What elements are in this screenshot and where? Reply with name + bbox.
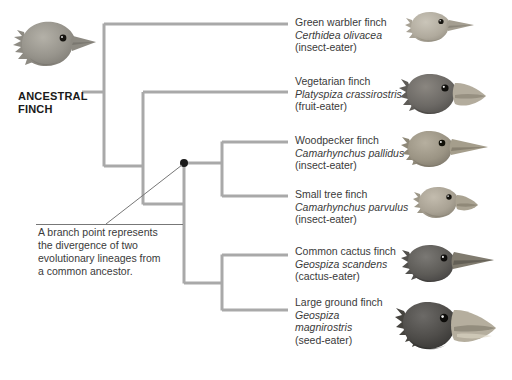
taxon-common-name: Woodpecker finch — [295, 134, 404, 147]
taxon-scientific-name-cont: magnirostris — [295, 321, 383, 334]
taxon-label-vegetarian-finch: Vegetarian finch Platyspiza crassirostri… — [295, 75, 402, 113]
callout-line-1: A branch point represents — [38, 226, 198, 239]
finch-head-large-ground-finch — [394, 296, 502, 356]
taxon-common-name: Common cactus finch — [295, 245, 396, 258]
taxon-diet: (insect-eater) — [295, 41, 387, 54]
taxon-label-common-cactus-finch: Common cactus finch Geospiza scandens (c… — [295, 245, 396, 283]
finch-head-common-cactus-finch — [400, 240, 500, 286]
callout-line-4: a common ancestor. — [38, 265, 198, 278]
finch-head-small-tree-finch — [412, 182, 488, 222]
taxon-common-name: Large ground finch — [295, 296, 383, 309]
taxon-common-name: Small tree finch — [295, 188, 408, 201]
taxon-diet: (insect-eater) — [295, 159, 404, 172]
ancestral-finch-head-icon — [8, 14, 100, 78]
taxon-label-small-tree-finch: Small tree finch Camarhynchus parvulus (… — [295, 188, 408, 226]
taxon-scientific-name: Camarhynchus pallidus — [295, 147, 404, 160]
finch-head-vegetarian-finch — [398, 68, 494, 120]
taxon-scientific-name: Platyspiza crassirostris — [295, 88, 402, 101]
taxon-label-woodpecker-finch: Woodpecker finch Camarhynchus pallidus (… — [295, 134, 404, 172]
branch-point-callout: A branch point represents the divergence… — [38, 226, 198, 278]
taxon-common-name: Vegetarian finch — [295, 75, 402, 88]
ancestral-finch-group: ANCESTRAL FINCH — [8, 14, 104, 78]
callout-line-2: the divergence of two — [38, 239, 198, 252]
taxon-scientific-name: Camarhynchus parvulus — [295, 201, 408, 214]
taxon-diet: (seed-eater) — [295, 334, 383, 347]
taxon-label-large-ground-finch: Large ground finch Geospiza magnirostris… — [295, 296, 383, 346]
taxon-common-name: Green warbler finch — [295, 16, 387, 29]
finch-head-green-warbler-finch — [404, 8, 482, 48]
taxon-diet: (fruit-eater) — [295, 100, 402, 113]
taxon-scientific-name: Certhidea olivacea — [295, 29, 387, 42]
taxon-scientific-name: Geospiza — [295, 309, 383, 322]
taxon-diet: (cactus-eater) — [295, 270, 396, 283]
cladogram-figure: ANCESTRAL FINCH Green warbler finch Cert… — [0, 0, 512, 380]
ancestral-finch-label: ANCESTRAL FINCH — [18, 90, 88, 116]
taxon-label-green-warbler-finch: Green warbler finch Certhidea olivacea (… — [295, 16, 387, 54]
finch-head-woodpecker-finch — [400, 126, 494, 172]
taxon-diet: (insect-eater) — [295, 213, 408, 226]
callout-line-3: evolutionary lineages from — [38, 252, 198, 265]
taxon-scientific-name: Geospiza scandens — [295, 258, 396, 271]
